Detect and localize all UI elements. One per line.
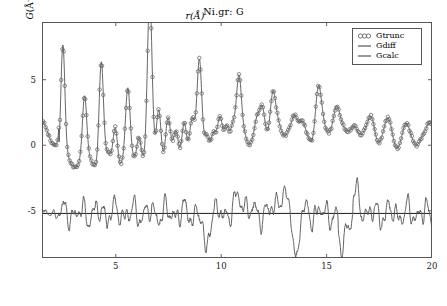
y-tick-label: 0 [14, 140, 36, 150]
y-axis-label-unit: (Å⁻²) [25, 0, 35, 12]
chart-title: Ni.gr: G [0, 6, 447, 17]
y-axis-label: G(Å⁻²) [25, 0, 35, 35]
x-tick-label: 20 [427, 261, 438, 271]
line-marker-icon [356, 41, 373, 51]
line-marker-icon [356, 51, 373, 61]
legend-label: Gtrunc [376, 31, 404, 41]
legend-entry-gtrunc[interactable]: Gtrunc [356, 31, 418, 41]
legend-label: Gcalc [376, 51, 399, 61]
legend-label: Gdiff [376, 41, 396, 51]
legend-entry-gdiff[interactable]: Gdiff [356, 41, 418, 51]
legend: Gtrunc Gdiff Gcalc [352, 28, 422, 65]
x-tick-label: 15 [321, 261, 332, 271]
legend-entry-gcalc[interactable]: Gcalc [356, 51, 418, 61]
y-tick-label: -5 [14, 206, 36, 216]
circle-marker-icon [356, 31, 373, 41]
y-axis-label-symbol: G [25, 12, 35, 19]
x-tick-label: 5 [113, 261, 118, 271]
y-tick-label: 5 [14, 75, 36, 85]
x-tick-label: 10 [216, 261, 227, 271]
pdf-plot-figure: Ni.gr: G G(Å⁻²) r(Å) 5 0 -5 5 10 15 20 [0, 0, 447, 306]
